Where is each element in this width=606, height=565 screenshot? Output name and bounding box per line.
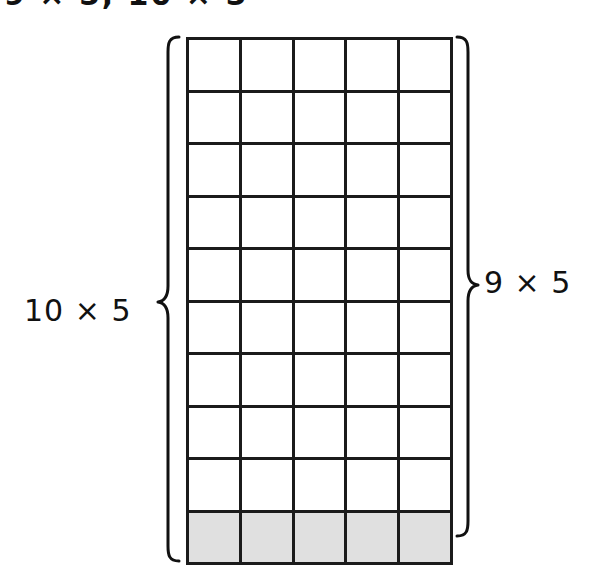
grid-cell: [189, 513, 242, 565]
grid-cell: [295, 460, 348, 513]
grid-cell: [347, 198, 400, 251]
grid-cell: [400, 198, 453, 251]
left-curly-brace-icon: [155, 34, 181, 564]
grid-cell: [400, 408, 453, 461]
grid-cell: [347, 250, 400, 303]
grid-cell: [242, 145, 295, 198]
grid-cell: [242, 408, 295, 461]
grid-cell: [242, 513, 295, 565]
cropped-heading-text: 9 × 5, 10 × 5: [0, 0, 606, 12]
grid-cell: [189, 303, 242, 356]
grid-cell: [295, 198, 348, 251]
grid-cell: [242, 40, 295, 93]
grid-cell: [295, 303, 348, 356]
grid-cell: [295, 40, 348, 93]
grid-cell: [189, 93, 242, 146]
grid-cell: [295, 355, 348, 408]
grid-cell: [347, 355, 400, 408]
grid-cell: [347, 408, 400, 461]
grid-cell: [189, 145, 242, 198]
grid-cell: [400, 145, 453, 198]
grid-cell: [347, 93, 400, 146]
grid-cell: [295, 145, 348, 198]
grid-cell: [295, 513, 348, 565]
grid-cell: [400, 513, 453, 565]
grid-cell: [400, 303, 453, 356]
grid-cell: [242, 250, 295, 303]
grid-cell: [189, 198, 242, 251]
grid-cell: [295, 408, 348, 461]
grid-cell: [295, 250, 348, 303]
left-brace-label: 10 × 5: [24, 293, 131, 328]
grid-cell: [242, 460, 295, 513]
grid-cell: [189, 408, 242, 461]
grid-cell: [347, 513, 400, 565]
grid-cell: [347, 303, 400, 356]
grid-cell: [242, 93, 295, 146]
grid-cell: [400, 460, 453, 513]
grid-cell: [189, 355, 242, 408]
grid-cell: [242, 355, 295, 408]
right-brace-label: 9 × 5: [484, 265, 571, 300]
area-model-grid: [186, 37, 453, 565]
grid-cell: [295, 93, 348, 146]
grid-cell: [189, 250, 242, 303]
grid-cell: [189, 460, 242, 513]
grid-cell: [347, 460, 400, 513]
grid-cell: [400, 93, 453, 146]
grid-cell: [242, 198, 295, 251]
grid-cell: [189, 40, 242, 93]
grid-cell: [400, 250, 453, 303]
grid-cell: [400, 355, 453, 408]
grid-cell: [347, 40, 400, 93]
grid-cell: [347, 145, 400, 198]
grid-cell: [242, 303, 295, 356]
right-curly-brace-icon: [455, 34, 481, 539]
grid-cell: [400, 40, 453, 93]
